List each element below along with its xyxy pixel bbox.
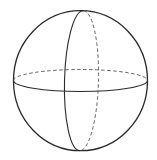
meridian-back-dashed: [80, 11, 101, 151]
sphere-outline: [14, 11, 148, 151]
meridian-front-solid: [63, 10, 84, 150]
equator-back-dashed: [14, 70, 148, 81]
equator-front-solid: [14, 81, 148, 92]
sphere-svg: [0, 0, 157, 160]
sphere-diagram: [0, 0, 157, 160]
